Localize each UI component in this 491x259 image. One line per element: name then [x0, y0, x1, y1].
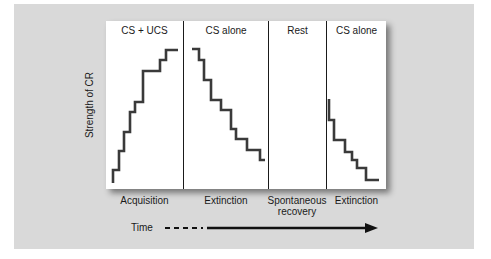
cr-strength-curves [113, 49, 379, 183]
arrow-head-icon [365, 223, 378, 233]
chart-svg [0, 0, 491, 259]
curve-1 [113, 50, 178, 183]
time-arrow [165, 223, 378, 233]
curve-3 [329, 99, 379, 180]
curve-2 [192, 49, 265, 160]
